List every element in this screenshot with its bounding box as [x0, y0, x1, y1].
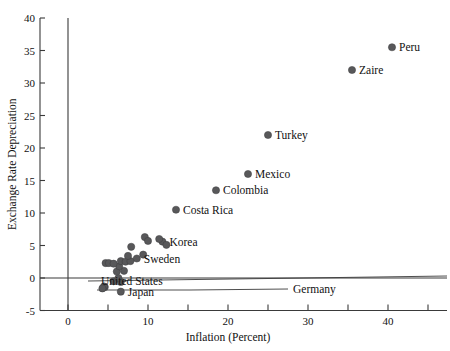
data-point-zaire: [348, 66, 355, 73]
point-label-japan: Japan: [128, 286, 154, 299]
point-label-sweden: Sweden: [144, 253, 181, 265]
point-label-korea: Korea: [169, 236, 197, 248]
point-label-turkey: Turkey: [275, 129, 308, 142]
y-tick-label: 30: [24, 77, 36, 89]
data-point-turkey: [264, 131, 271, 138]
scatter-plot-canvas: -50510152025303540010203040Inflation (Pe…: [0, 0, 450, 351]
leader-line-germany-tail: [190, 289, 288, 290]
x-axis-title: Inflation (Percent): [186, 331, 271, 344]
x-tick-label: 30: [303, 315, 315, 327]
data-point-japan: [117, 288, 124, 295]
chart-figure: -50510152025303540010203040Inflation (Pe…: [0, 0, 450, 351]
point-label-mexico: Mexico: [255, 168, 290, 180]
data-point-29: [156, 235, 163, 242]
data-point-sweden: [133, 255, 140, 262]
y-tick-label: -5: [26, 305, 36, 317]
y-tick-label: 0: [30, 272, 36, 284]
x-tick-label: 0: [65, 315, 71, 327]
point-label-zaire: Zaire: [359, 64, 383, 76]
data-point-20: [110, 260, 117, 267]
data-point-colombia: [212, 187, 219, 194]
data-point-28: [144, 237, 151, 244]
y-tick-label: 25: [24, 110, 36, 122]
y-tick-label: 35: [24, 45, 36, 57]
y-tick-label: 20: [24, 142, 36, 154]
y-tick-label: 40: [24, 12, 36, 24]
data-point-24: [124, 252, 131, 259]
data-point-peru: [388, 44, 395, 51]
point-label-colombia: Colombia: [223, 184, 268, 196]
y-tick-label: 15: [24, 175, 36, 187]
data-point-26: [128, 243, 135, 250]
x-tick-label: 10: [143, 315, 155, 327]
point-label-costa-rica: Costa Rica: [183, 204, 233, 216]
x-tick-label: 20: [223, 315, 235, 327]
y-tick-label: 10: [24, 207, 36, 219]
y-axis-title: Exchange Rate Depreciation: [6, 98, 19, 230]
y-tick-label: 5: [30, 240, 36, 252]
point-label-germany: Germany: [293, 283, 336, 296]
point-label-peru: Peru: [399, 41, 420, 53]
data-point-costa-rica: [172, 206, 179, 213]
x-tick-label: 40: [383, 315, 395, 327]
data-point-mexico: [244, 170, 251, 177]
